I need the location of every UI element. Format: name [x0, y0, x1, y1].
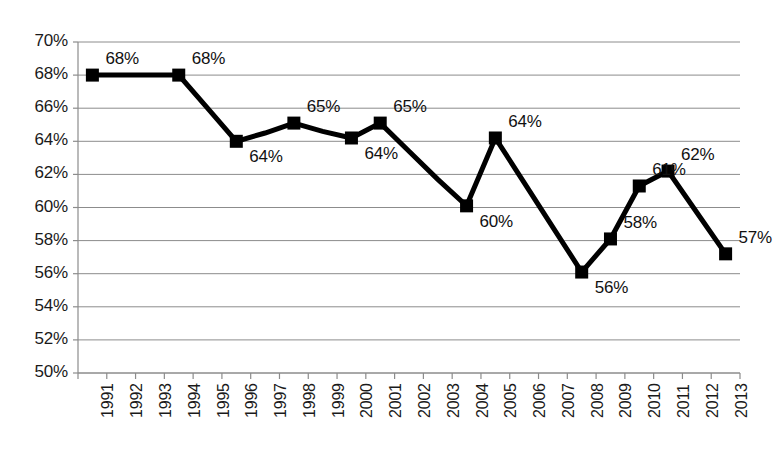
- x-axis-tick-label: 1991: [99, 383, 117, 418]
- gridlines: [78, 42, 740, 373]
- data-point-marker: [575, 266, 588, 279]
- y-axis-tick-label: 52%: [10, 329, 68, 349]
- data-point-marker: [374, 117, 387, 130]
- y-axis-tick-label: 68%: [10, 64, 68, 84]
- y-axis-tick-label: 58%: [10, 230, 68, 250]
- y-axis-tick-label: 64%: [10, 130, 68, 150]
- x-axis-tick-label: 2004: [474, 383, 492, 418]
- x-axis-tick-label: 1992: [128, 383, 146, 418]
- x-axis-tick-label: 2010: [646, 383, 664, 418]
- y-axis-ticks: [73, 42, 78, 373]
- data-point-label: 62%: [681, 145, 714, 165]
- x-axis-tick-label: 1998: [301, 383, 319, 418]
- x-axis-tick-label: 2006: [531, 383, 549, 418]
- data-point-label: 68%: [105, 49, 138, 69]
- data-point-label: 64%: [249, 147, 282, 167]
- x-axis-tick-label: 2009: [617, 383, 635, 418]
- data-point-marker: [287, 117, 300, 130]
- data-point-label: 65%: [393, 97, 426, 117]
- data-point-marker: [460, 199, 473, 212]
- x-axis-tick-label: 2001: [387, 383, 405, 418]
- x-axis-tick-label: 2008: [589, 383, 607, 418]
- x-axis-tick-label: 2005: [502, 383, 520, 418]
- data-point-marker: [172, 69, 185, 82]
- data-point-marker: [604, 232, 617, 245]
- data-point-label: 64%: [508, 112, 541, 132]
- x-axis-tick-label: 2012: [704, 383, 722, 418]
- x-axis-tick-label: 2003: [445, 383, 463, 418]
- data-point-label: 65%: [307, 97, 340, 117]
- x-axis-tick-label: 2000: [358, 383, 376, 418]
- data-point-marker: [86, 69, 99, 82]
- y-axis-tick-label: 54%: [10, 296, 68, 316]
- y-axis-tick-label: 66%: [10, 97, 68, 117]
- x-axis-tick-label: 1994: [186, 383, 204, 418]
- data-point-label: 58%: [623, 213, 656, 233]
- y-axis-tick-label: 50%: [10, 362, 68, 382]
- data-point-label: 64%: [364, 144, 397, 164]
- x-axis-tick-label: 1993: [157, 383, 175, 418]
- data-point-label: 60%: [480, 212, 513, 232]
- x-axis-tick-label: 2013: [733, 383, 751, 418]
- x-axis-tick-label: 1999: [330, 383, 348, 418]
- data-point-label: 57%: [739, 228, 772, 248]
- data-point-marker: [230, 135, 243, 148]
- x-axis-tick-label: 1996: [243, 383, 261, 418]
- x-axis-tick-label: 2007: [560, 383, 578, 418]
- y-axis-tick-label: 60%: [10, 197, 68, 217]
- y-axis-tick-label: 56%: [10, 263, 68, 283]
- x-axis-ticks: [78, 373, 740, 379]
- data-point-marker: [345, 131, 358, 144]
- x-axis-tick-label: 1995: [215, 383, 233, 418]
- data-point-marker: [633, 179, 646, 192]
- x-axis-tick-label: 1997: [272, 383, 290, 418]
- x-axis-tick-label: 2002: [416, 383, 434, 418]
- x-axis-tick-label: 2011: [675, 384, 693, 418]
- y-axis-tick-label: 70%: [10, 31, 68, 51]
- y-axis-tick-label: 62%: [10, 163, 68, 183]
- data-point-label: 56%: [595, 278, 628, 298]
- line-chart: 70%68%66%64%62%60%58%56%54%52%50% 199119…: [0, 0, 776, 449]
- data-point-label: 68%: [192, 49, 225, 69]
- data-point-marker: [719, 247, 732, 260]
- data-point-marker: [489, 131, 502, 144]
